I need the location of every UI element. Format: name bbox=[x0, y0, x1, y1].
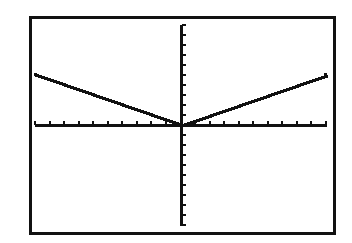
y-axis-tick bbox=[182, 114, 186, 116]
y-axis-tick bbox=[182, 54, 186, 56]
y-axis-tick bbox=[182, 94, 186, 96]
y-axis-tick bbox=[182, 164, 186, 166]
y-axis-tick bbox=[182, 64, 186, 66]
y-axis-tick bbox=[182, 24, 186, 26]
y-axis-tick bbox=[182, 144, 186, 146]
x-axis-tick bbox=[78, 121, 80, 125]
x-axis-tick bbox=[150, 121, 152, 125]
y-axis-tick bbox=[182, 44, 186, 46]
x-axis-tick bbox=[252, 121, 254, 125]
x-axis-tick bbox=[49, 121, 51, 125]
y-axis-tick bbox=[182, 224, 186, 226]
y-axis-tick bbox=[182, 34, 186, 36]
y-axis-tick bbox=[182, 184, 186, 186]
x-axis-tick bbox=[107, 121, 109, 125]
y-axis-tick bbox=[182, 154, 186, 156]
y-axis-tick bbox=[182, 214, 186, 216]
y-axis-tick bbox=[182, 204, 186, 206]
x-axis-tick bbox=[310, 121, 312, 125]
y-axis-tick bbox=[182, 194, 186, 196]
graph-plot-area bbox=[32, 19, 333, 232]
x-axis-tick bbox=[34, 121, 36, 125]
x-axis-tick bbox=[63, 121, 65, 125]
curve-endpoint bbox=[34, 73, 37, 76]
curve-endpoint bbox=[324, 73, 327, 76]
calculator-graph-screen: y = 0.5|x| bbox=[29, 16, 336, 235]
x-axis-tick bbox=[267, 121, 269, 125]
y-axis-tick bbox=[182, 174, 186, 176]
x-axis-tick bbox=[136, 121, 138, 125]
x-axis-tick bbox=[223, 121, 225, 125]
x-axis-tick bbox=[92, 121, 94, 125]
x-axis-tick bbox=[325, 121, 327, 125]
x-axis-tick bbox=[296, 121, 298, 125]
x-axis-tick bbox=[281, 121, 283, 125]
x-axis-tick bbox=[209, 121, 211, 125]
y-axis-tick bbox=[182, 74, 186, 76]
x-axis-tick bbox=[121, 121, 123, 125]
y-axis-tick bbox=[182, 134, 186, 136]
x-axis-tick bbox=[238, 121, 240, 125]
y-axis-tick bbox=[182, 104, 186, 106]
y-axis-tick bbox=[182, 84, 186, 86]
